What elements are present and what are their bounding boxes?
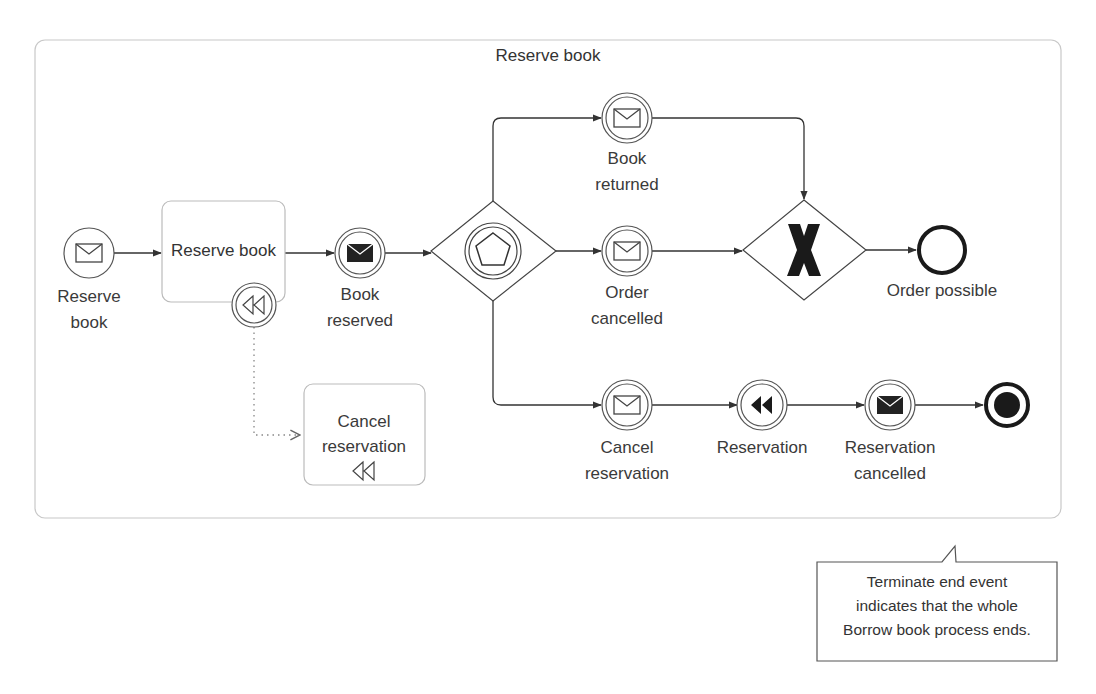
terminate-end-event[interactable]: [986, 384, 1028, 426]
order-possible-end-event[interactable]: [919, 227, 965, 273]
message-start-event[interactable]: [64, 228, 114, 278]
task-reserve-book-label: Reserve book: [162, 241, 285, 261]
reservation-cancelled-event[interactable]: [865, 380, 915, 430]
cancel-reservation-label: Cancel reservation: [585, 435, 669, 487]
book-reserved-event[interactable]: [335, 228, 385, 278]
exclusive-gateway[interactable]: [743, 200, 866, 300]
filled-envelope-icon: [877, 396, 903, 414]
flow-book-returned-to-xor[interactable]: [652, 118, 804, 199]
flow-gateway-to-cancel-reservation[interactable]: [493, 301, 601, 405]
reservation-label: Reservation: [717, 435, 808, 461]
book-reserved-label: Book reserved: [327, 282, 393, 334]
annotation-text: Terminate end event indicates that the w…: [817, 570, 1057, 642]
compensation-association[interactable]: [254, 327, 300, 435]
order-cancelled-label: Order cancelled: [591, 280, 663, 332]
event-based-gateway[interactable]: [431, 201, 556, 301]
reservation-compensation-event[interactable]: [737, 380, 787, 430]
subprocess-title: Reserve book: [496, 46, 601, 66]
filled-envelope-icon: [347, 244, 373, 262]
flow-gateway-to-book-returned[interactable]: [493, 118, 601, 201]
order-cancelled-event[interactable]: [602, 226, 652, 276]
book-returned-label: Book returned: [595, 146, 658, 198]
book-returned-event[interactable]: [602, 93, 652, 143]
start-event-label: Reserve book: [57, 284, 120, 336]
order-possible-label: Order possible: [887, 278, 998, 304]
reservation-cancelled-label: Reservation cancelled: [845, 435, 936, 487]
cancel-reservation-event[interactable]: [602, 380, 652, 430]
compensation-boundary-event[interactable]: [232, 283, 276, 327]
task-cancel-reservation-label: Cancel reservation: [322, 409, 406, 459]
